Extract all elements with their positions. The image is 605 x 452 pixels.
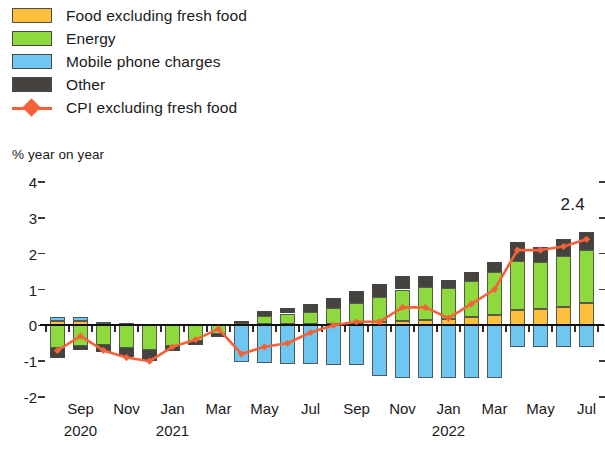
x-axis-tick-label: Nov [389, 400, 416, 417]
legend-line-marker [12, 100, 52, 115]
cpi-line-series [46, 182, 598, 397]
legend-item-label: CPI excluding fresh food [66, 99, 237, 117]
x-axis-tick-label: Jul [577, 400, 596, 417]
y-axis-tick-mark-right [599, 253, 605, 254]
x-axis-year-label: 2022 [432, 422, 465, 439]
y-axis-tick-mark [38, 217, 45, 218]
legend-item-label: Other [66, 76, 105, 94]
y-axis-tick-mark-right [599, 217, 605, 218]
y-axis-tick-label: -1 [24, 353, 37, 370]
x-axis-tick-label: Jul [301, 400, 320, 417]
y-axis-tick-label: 4 [29, 174, 37, 191]
x-axis-tick-label: Sep [67, 400, 94, 417]
cpi-line-marker [583, 236, 590, 243]
legend-item-label: Food excluding fresh food [66, 7, 247, 25]
legend-item: Other [12, 73, 247, 96]
x-axis-tick-label: Mar [206, 400, 232, 417]
cpi-line-marker [123, 354, 130, 361]
y-axis-tick-mark [38, 253, 45, 254]
cpi-line-marker [330, 322, 337, 329]
y-axis-tick-label: 1 [29, 281, 37, 298]
legend-swatch-food [12, 8, 52, 23]
legend-diamond-marker [22, 98, 40, 116]
x-axis-year-label: 2021 [156, 422, 189, 439]
x-axis-tick-label: Jan [160, 400, 184, 417]
y-axis-tick-mark-right [599, 181, 605, 182]
cpi-line-path [58, 239, 587, 361]
y-axis-tick-label: 2 [29, 245, 37, 262]
legend-item: CPI excluding fresh food [12, 96, 247, 119]
y-axis-tick-mark [38, 396, 45, 397]
y-axis-tick-label: -2 [24, 389, 37, 406]
chart-legend: Food excluding fresh foodEnergyMobile ph… [12, 4, 247, 119]
legend-swatch-mobile [12, 54, 52, 69]
x-axis-year-label: 2020 [64, 422, 97, 439]
x-axis-tick-label: Sep [343, 400, 370, 417]
legend-swatch-energy [12, 31, 52, 46]
y-axis-title: % year on year [12, 147, 104, 162]
legend-item: Food excluding fresh food [12, 4, 247, 27]
cpi-line-marker [353, 318, 360, 325]
y-axis-tick-mark [38, 181, 45, 182]
legend-item-label: Mobile phone charges [66, 53, 221, 71]
y-axis-tick-mark-right [599, 289, 605, 290]
legend-swatch-other [12, 77, 52, 92]
y-axis-tick-mark [38, 289, 45, 290]
plot-area: 43210-1-2 [46, 182, 598, 397]
y-axis-tick-mark-right [599, 396, 605, 397]
cpi-line-marker [537, 246, 544, 253]
cpi-line-marker [560, 243, 567, 250]
x-axis-tick-label: May [250, 400, 278, 417]
x-axis-tick-label: Mar [482, 400, 508, 417]
cpi-line-marker [261, 343, 268, 350]
y-axis-tick-label: 0 [29, 317, 37, 334]
y-axis-tick-mark [38, 360, 45, 361]
x-axis-tick-label: Nov [113, 400, 140, 417]
chart-figure: Food excluding fresh foodEnergyMobile ph… [0, 0, 605, 452]
legend-item-label: Energy [66, 30, 116, 48]
y-axis-tick-label: 3 [29, 209, 37, 226]
legend-item: Mobile phone charges [12, 50, 247, 73]
legend-item: Energy [12, 27, 247, 50]
y-axis-tick-mark-right [599, 360, 605, 361]
x-axis-tick-label: May [526, 400, 554, 417]
x-axis-tick-label: Jan [436, 400, 460, 417]
